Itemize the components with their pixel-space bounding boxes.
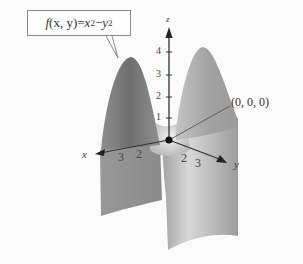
- function-args: (x, y): [49, 15, 77, 31]
- callout-tail: [106, 36, 118, 58]
- equals-sign: =: [77, 15, 84, 31]
- x-tick-3: 3: [118, 150, 124, 165]
- z-tick-2: 2: [156, 90, 161, 101]
- z-tick-4: 4: [156, 45, 161, 56]
- surface-peak-left: [101, 57, 160, 150]
- y-tick-3: 3: [195, 156, 201, 171]
- surface-sheet-left: [100, 142, 162, 216]
- y-axis-label: y: [234, 158, 239, 170]
- function-callout: f(x, y) = x2 − y2: [27, 10, 131, 36]
- origin-point: [165, 136, 172, 143]
- z-tick-1: 1: [156, 111, 161, 122]
- z-axis-arrowhead: [166, 27, 173, 38]
- exponent-y: 2: [108, 18, 113, 28]
- surface-plot: [0, 0, 303, 264]
- x-tick-2: 2: [136, 147, 142, 162]
- x-axis-label: x: [82, 148, 87, 160]
- y-tick-2: 2: [181, 151, 187, 166]
- surface-peak-right: [176, 47, 238, 140]
- x-axis-arrowhead: [95, 149, 105, 156]
- saddle-surface-figure: f(x, y) = x2 − y2 z 1 2 3 4 x 3 2 2 3 y …: [0, 0, 303, 264]
- z-axis-label: z: [166, 14, 170, 24]
- origin-label: (0, 0, 0): [231, 95, 269, 110]
- z-tick-3: 3: [156, 68, 161, 79]
